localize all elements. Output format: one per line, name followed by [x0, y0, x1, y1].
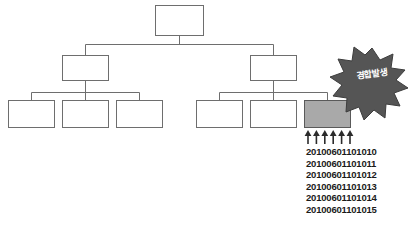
leaf-node-4[interactable]	[197, 101, 243, 128]
arrow-up-icon	[330, 130, 337, 144]
list-item: 20100601101011	[306, 158, 377, 170]
arrow-up-icon	[338, 130, 345, 144]
branch-node-left[interactable]	[63, 56, 109, 81]
arrow-up-icon	[313, 130, 320, 144]
arrow-up-icon	[347, 130, 354, 144]
leaf-node-3[interactable]	[117, 101, 163, 128]
leaf-node-6[interactable]	[305, 101, 351, 128]
root-node[interactable]	[156, 6, 204, 36]
list-item: 20100601101015	[306, 204, 377, 216]
leaf-node-5[interactable]	[251, 101, 297, 128]
list-item: 20100601101010	[306, 146, 377, 158]
arrow-up-group	[305, 130, 354, 144]
list-item: 20100601101014	[306, 192, 377, 204]
arrow-up-icon	[305, 130, 312, 144]
list-item: 20100601101012	[306, 169, 377, 181]
leaf-node-2[interactable]	[63, 101, 109, 128]
arrow-up-icon	[321, 130, 328, 144]
branch-node-right[interactable]	[251, 56, 297, 81]
leaf-node-1[interactable]	[9, 101, 55, 128]
list-item: 20100601101013	[306, 181, 377, 193]
org-tree-diagram: 경합발생 20100601101010 20100601101011 20100…	[0, 0, 412, 226]
conflict-id-list: 20100601101010 20100601101011 2010060110…	[306, 146, 377, 216]
